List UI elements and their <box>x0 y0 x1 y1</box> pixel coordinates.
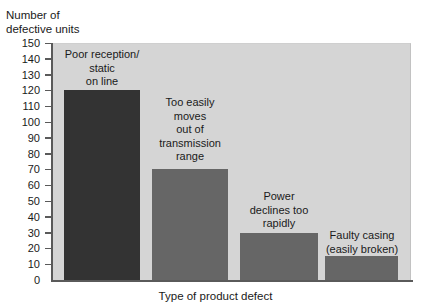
y-tick-mark <box>45 122 52 124</box>
y-tick-mark <box>45 201 52 203</box>
y-tick-mark <box>45 137 52 139</box>
y-tick-mark <box>45 74 52 76</box>
y-tick-label: 10 <box>12 257 40 271</box>
y-tick-mark <box>45 90 52 92</box>
y-tick-label: 50 <box>12 194 40 208</box>
y-tick-label: 60 <box>12 178 40 192</box>
y-tick-label: 30 <box>12 226 40 240</box>
y-tick-mark <box>45 43 52 45</box>
y-axis-title: Number of defective units <box>6 8 126 36</box>
y-tick-mark <box>45 248 52 250</box>
x-axis-title: Type of product defect <box>0 290 431 302</box>
bar-category-label: Poor reception/ static on line <box>56 48 148 89</box>
y-tick-label: 100 <box>12 115 40 129</box>
y-tick-mark <box>45 264 52 266</box>
x-axis-line <box>51 280 413 282</box>
y-tick-mark <box>45 185 52 187</box>
y-tick-mark <box>45 216 52 218</box>
y-tick-label: 70 <box>12 162 40 176</box>
bar <box>152 169 228 280</box>
y-axis-line <box>51 43 53 281</box>
y-tick-mark <box>45 232 52 234</box>
y-tick-label: 130 <box>12 68 40 82</box>
y-tick-mark <box>45 153 52 155</box>
defect-pareto-chart: Number of defective units 01020304050607… <box>0 0 431 306</box>
bar <box>64 90 140 280</box>
y-tick-label: 0 <box>12 273 40 287</box>
y-tick-label: 150 <box>12 36 40 50</box>
y-tick-label: 20 <box>12 241 40 255</box>
bar-category-label: Power declines too rapidly <box>232 190 326 231</box>
y-tick-label: 120 <box>12 83 40 97</box>
y-tick-label: 110 <box>12 99 40 113</box>
bar <box>325 256 398 280</box>
y-tick-mark <box>45 169 52 171</box>
y-tick-label: 80 <box>12 147 40 161</box>
bar-category-label: Faulty casing (easily broken) <box>312 229 412 256</box>
bar <box>240 233 318 280</box>
y-tick-label: 90 <box>12 131 40 145</box>
y-tick-label: 140 <box>12 52 40 66</box>
bar-category-label: Too easily moves out of transmission ran… <box>144 96 236 164</box>
y-tick-mark <box>45 58 52 60</box>
y-tick-mark <box>45 106 52 108</box>
y-tick-label: 40 <box>12 210 40 224</box>
